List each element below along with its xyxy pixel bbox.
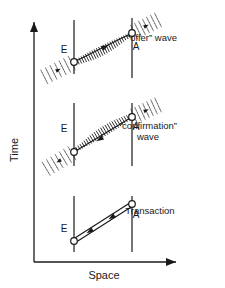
- dotted-tick: [153, 21, 154, 24]
- dotted-tick: [55, 154, 57, 157]
- caption-offer: “offer” wave: [127, 32, 177, 43]
- dotted-tick: [139, 105, 140, 108]
- dotted-tick: [62, 66, 63, 69]
- dotted-tick: [148, 115, 149, 118]
- dotted-tick: [47, 70, 48, 73]
- caption-transaction: Transaction: [125, 205, 174, 216]
- dotted-tick: [160, 24, 161, 27]
- dotted-tick: [139, 116, 140, 119]
- dotted-tick: [42, 162, 44, 165]
- dotted-tick: [59, 152, 61, 155]
- dotted-tick: [156, 26, 157, 29]
- dotted-tick: [147, 102, 148, 105]
- dotted-tick: [55, 63, 56, 66]
- dotted-tick: [52, 160, 54, 163]
- dotted-tick: [151, 15, 152, 18]
- emitter-label-offer: E: [61, 44, 68, 55]
- dotted-tick: [63, 69, 64, 72]
- dotted-tick: [69, 70, 70, 73]
- dashed-tail-arrowhead-offer: [55, 69, 61, 73]
- space-axis-label: Space: [88, 269, 119, 281]
- dotted-tick: [136, 110, 137, 113]
- dotted-tick: [53, 170, 55, 173]
- dotted-tick: [45, 68, 46, 71]
- dotted-tick: [135, 107, 136, 110]
- dashed-head-arrowhead-confirmation: [143, 109, 149, 113]
- dotted-tick: [61, 154, 63, 157]
- emitter-node-transaction: [71, 238, 78, 245]
- dotted-tick: [140, 24, 141, 27]
- dotted-tick: [152, 103, 153, 106]
- dotted-tick: [45, 78, 46, 81]
- dotted-tick: [45, 167, 47, 170]
- dotted-tick: [155, 108, 156, 111]
- dotted-tick: [56, 66, 57, 69]
- dotted-tick: [44, 76, 45, 79]
- dotted-tick: [64, 59, 65, 62]
- dotted-tick: [159, 21, 160, 24]
- dotted-tick: [144, 106, 145, 109]
- dotted-tick: [144, 117, 145, 120]
- dotted-tick: [152, 113, 153, 116]
- dashed-head-arrowhead-offer: [143, 25, 149, 29]
- dotted-tick: [64, 160, 66, 163]
- dotted-tick: [153, 105, 154, 108]
- dotted-tick: [159, 106, 160, 109]
- dotted-tick: [65, 152, 67, 155]
- dotted-tick: [67, 155, 69, 158]
- dotted-tick: [51, 168, 53, 171]
- dotted-tick: [59, 71, 60, 74]
- dotted-tick: [51, 79, 52, 82]
- transaction-line-lower: [73, 202, 131, 239]
- spacetime-diagram: Time Space EA“offer” waveEA“confirmation…: [0, 0, 225, 288]
- dotted-tick: [140, 108, 141, 111]
- dotted-tick: [152, 18, 153, 21]
- dotted-tick: [148, 20, 149, 23]
- dotted-tick: [149, 107, 150, 110]
- dotted-tick: [50, 76, 51, 79]
- dotted-tick: [148, 104, 149, 107]
- diagram-canvas: Time Space EA“offer” waveEA“confirmation…: [0, 0, 225, 288]
- dotted-tick: [149, 23, 150, 26]
- dotted-tick: [156, 101, 157, 104]
- dotted-tick: [46, 160, 48, 163]
- dotted-tick: [48, 73, 49, 76]
- dotted-tick: [151, 100, 152, 103]
- dotted-tick: [50, 65, 51, 68]
- dotted-tick: [57, 168, 59, 171]
- dotted-tick: [50, 165, 52, 168]
- emitter-label-confirmation: E: [61, 123, 68, 134]
- dotted-tick: [61, 64, 62, 67]
- dotted-tick: [155, 23, 156, 26]
- dotted-tick: [56, 165, 58, 168]
- dotted-tick: [144, 22, 145, 25]
- dotted-tick: [155, 98, 156, 101]
- dotted-tick: [49, 173, 51, 176]
- dotted-tick: [68, 157, 70, 160]
- dotted-tick: [147, 17, 148, 20]
- dotted-tick: [54, 162, 56, 165]
- dotted-tick: [139, 21, 140, 24]
- dotted-tick: [157, 19, 158, 22]
- dotted-tick: [136, 26, 137, 29]
- dotted-tick: [137, 29, 138, 32]
- emitter-label-transaction: E: [61, 223, 68, 234]
- dotted-tick: [143, 19, 144, 22]
- dotted-tick: [56, 76, 57, 79]
- caption-line: Transaction: [125, 205, 174, 216]
- caption-line: “confirmation”: [119, 120, 177, 131]
- dotted-tick: [156, 111, 157, 114]
- dotted-tick: [61, 165, 63, 168]
- dotted-tick: [65, 61, 66, 64]
- dotted-tick: [65, 72, 66, 75]
- axes: Time Space: [8, 22, 176, 281]
- caption-line: wave: [136, 131, 159, 142]
- dotted-tick: [143, 104, 144, 107]
- caption-confirmation: “confirmation”wave: [119, 120, 177, 142]
- emitter-node-confirmation: [71, 149, 78, 156]
- dotted-tick: [68, 147, 70, 150]
- dotted-tick: [60, 74, 61, 77]
- dotted-tick: [143, 114, 144, 117]
- dotted-tick: [66, 162, 68, 165]
- dotted-tick: [53, 71, 54, 74]
